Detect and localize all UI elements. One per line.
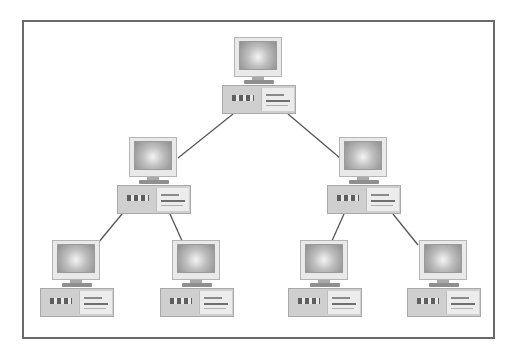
desktop-case-icon bbox=[160, 288, 234, 317]
monitor-icon bbox=[300, 240, 348, 280]
computer-mid-right bbox=[327, 137, 403, 215]
computer-leaf-2 bbox=[160, 240, 236, 318]
desktop-case-icon bbox=[117, 185, 191, 214]
screen bbox=[57, 244, 95, 273]
computer-leaf-3 bbox=[288, 240, 364, 318]
desktop-case-icon bbox=[407, 288, 481, 317]
monitor-base bbox=[182, 283, 212, 287]
drive-bay bbox=[366, 188, 399, 211]
front-buttons bbox=[417, 298, 439, 304]
screen bbox=[177, 244, 215, 273]
drive-bay bbox=[327, 291, 360, 314]
drive-bay bbox=[446, 291, 479, 314]
link-mid-left-leaf-2 bbox=[170, 214, 183, 243]
computer-root bbox=[222, 37, 298, 115]
front-buttons bbox=[127, 195, 149, 201]
monitor-base bbox=[62, 283, 92, 287]
front-buttons bbox=[232, 95, 254, 101]
drive-bay bbox=[199, 291, 232, 314]
monitor-base bbox=[310, 283, 340, 287]
monitor-icon bbox=[52, 240, 100, 280]
monitor-base bbox=[429, 283, 459, 287]
computer-mid-left bbox=[117, 137, 193, 215]
monitor-icon bbox=[234, 37, 282, 77]
drive-bay bbox=[261, 88, 294, 111]
drive-bay bbox=[79, 291, 112, 314]
screen bbox=[344, 141, 382, 170]
link-mid-right-leaf-3 bbox=[331, 214, 344, 243]
drive-bay bbox=[156, 188, 189, 211]
front-buttons bbox=[170, 298, 192, 304]
desktop-case-icon bbox=[327, 185, 401, 214]
front-buttons bbox=[50, 298, 72, 304]
computer-leaf-4 bbox=[407, 240, 483, 318]
monitor-base bbox=[139, 180, 169, 184]
monitor-icon bbox=[419, 240, 467, 280]
monitor-icon bbox=[129, 137, 177, 177]
desktop-case-icon bbox=[222, 85, 296, 114]
screen bbox=[305, 244, 343, 273]
monitor-icon bbox=[339, 137, 387, 177]
front-buttons bbox=[298, 298, 320, 304]
monitor-base bbox=[244, 80, 274, 84]
screen bbox=[424, 244, 462, 273]
screen bbox=[239, 41, 277, 70]
monitor-icon bbox=[172, 240, 220, 280]
monitor-base bbox=[349, 180, 379, 184]
desktop-case-icon bbox=[40, 288, 114, 317]
screen bbox=[134, 141, 172, 170]
link-mid-left-leaf-1 bbox=[98, 214, 122, 243]
desktop-case-icon bbox=[288, 288, 362, 317]
front-buttons bbox=[337, 195, 359, 201]
computer-leaf-1 bbox=[40, 240, 116, 318]
